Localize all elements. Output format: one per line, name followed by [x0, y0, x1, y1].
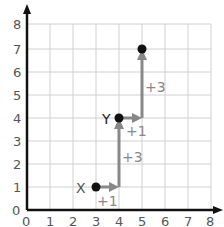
svg-text:7: 7 [184, 214, 192, 227]
svg-text:6: 6 [161, 214, 169, 227]
point-y-label: Y [101, 111, 111, 127]
svg-text:2: 2 [69, 214, 77, 227]
svg-text:0: 0 [12, 203, 20, 218]
svg-text:2: 2 [13, 157, 21, 172]
svg-text:0: 0 [22, 214, 30, 227]
x-tick-labels: 0 1 2 3 4 5 6 7 8 [22, 214, 214, 227]
svg-text:5: 5 [138, 214, 146, 227]
svg-text:8: 8 [206, 214, 214, 227]
y-tick-labels: 1 2 3 4 5 6 7 8 0 [12, 17, 21, 218]
svg-text:5: 5 [13, 88, 21, 103]
svg-text:+3: +3 [122, 149, 143, 165]
svg-text:6: 6 [13, 65, 21, 80]
x-axis-arrow-icon [213, 206, 223, 214]
svg-text:+1: +1 [126, 123, 147, 139]
coordinate-grid: 0 1 2 3 4 5 6 7 8 1 2 3 4 5 6 7 8 0 +1 +… [0, 0, 224, 227]
svg-text:8: 8 [13, 17, 21, 32]
y-axis-arrow-icon [23, 4, 31, 14]
step-labels: +1 +3 +1 +3 [97, 79, 166, 209]
svg-text:4: 4 [13, 111, 21, 126]
svg-text:+1: +1 [97, 193, 118, 209]
svg-text:1: 1 [13, 180, 21, 195]
svg-text:3: 3 [92, 214, 100, 227]
svg-text:4: 4 [115, 214, 123, 227]
axes [23, 4, 223, 214]
point-y [115, 114, 124, 123]
svg-text:3: 3 [13, 134, 21, 149]
point-end [138, 45, 147, 54]
svg-text:1: 1 [46, 214, 54, 227]
point-x-label: X [76, 180, 86, 196]
point-x [92, 183, 101, 192]
svg-text:7: 7 [13, 42, 21, 57]
svg-text:+3: +3 [145, 79, 166, 95]
